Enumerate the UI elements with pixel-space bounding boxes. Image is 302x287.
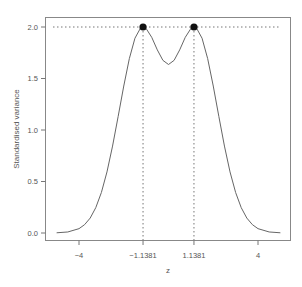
peak-marker [139, 23, 146, 30]
y-tick-label: 1.5 [28, 74, 38, 83]
plot-frame [46, 18, 291, 241]
x-tick-label: −1.1381 [129, 251, 156, 260]
variance-curve [57, 27, 281, 233]
y-axis: 0.00.51.01.52.0 [28, 23, 46, 238]
x-axis: −4−1.13811.13814 [75, 241, 260, 261]
reference-lines [53, 27, 281, 240]
peak-marker [190, 23, 197, 30]
y-tick-label: 0.0 [28, 229, 38, 238]
peak-points [139, 23, 197, 30]
y-tick-label: 1.0 [28, 126, 38, 135]
y-axis-label: Standardised variance [12, 89, 21, 169]
y-tick-label: 0.5 [28, 177, 38, 186]
chart: −4−1.13811.13814 0.00.51.01.52.0 z Stand… [0, 0, 302, 287]
x-axis-label: z [166, 266, 170, 275]
x-tick-label: 4 [256, 251, 260, 260]
x-tick-label: −4 [75, 251, 84, 260]
x-tick-label: 1.1381 [182, 251, 205, 260]
y-tick-label: 2.0 [28, 23, 38, 32]
